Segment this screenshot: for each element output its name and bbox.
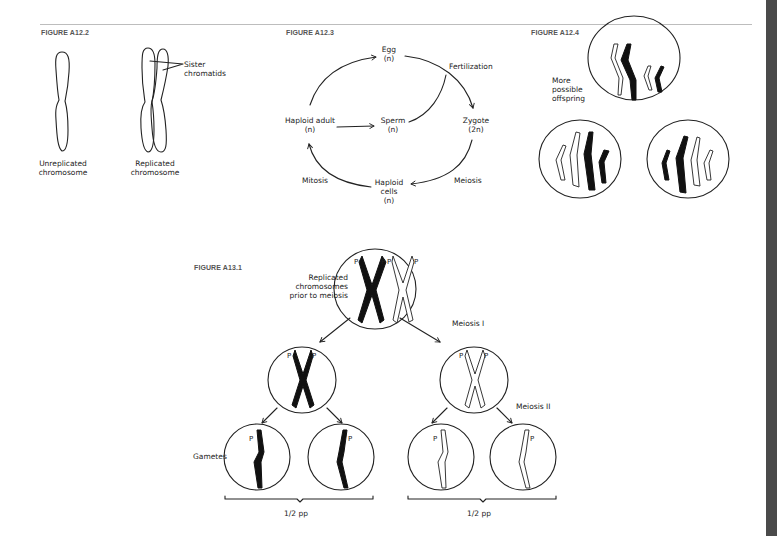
allele-marker: P	[459, 352, 463, 360]
allele-marker: P	[414, 258, 418, 266]
sperm-node: Sperm (n)	[376, 116, 410, 134]
haploid-adult-node: Haploid adult (n)	[280, 116, 340, 134]
fertilization-label: Fertilization	[449, 62, 493, 71]
meiosis-two-label: Meiosis II	[516, 402, 550, 411]
sister-chromatids-label: Sister chromatids	[184, 60, 226, 78]
recessive-cell	[440, 347, 508, 413]
bracket-right	[408, 496, 556, 502]
textbook-page: FIGURE A12.2 FIGURE A12.3 FIGURE A12.4 F…	[0, 0, 777, 536]
meiosis-two-arrow-1	[262, 408, 277, 423]
unreplicated-chromosome-label: Unreplicated chromosome	[36, 159, 90, 177]
allele-marker: P	[530, 435, 534, 443]
allele-marker: P	[287, 352, 291, 360]
allele-marker: P	[387, 258, 391, 266]
allele-marker: P	[348, 435, 352, 443]
dominant-cell	[268, 347, 336, 413]
allele-marker: P	[354, 258, 358, 266]
meiosis-one-label: Meiosis I	[452, 319, 484, 328]
offspring-cell-bottom-right	[647, 120, 729, 198]
zygote-node: Zygote (2n)	[459, 116, 493, 134]
gamete-2	[308, 424, 374, 490]
figure-a12-2-title: FIGURE A12.2	[41, 29, 89, 36]
figure-artwork	[0, 0, 777, 536]
gamete-3	[408, 424, 474, 490]
meiosis-two-arrow-4	[497, 408, 512, 423]
gamete-1	[224, 424, 290, 490]
allele-marker: P	[381, 258, 385, 266]
replicated-chromosomes-label: Replicated chromosomes prior to meiosis	[278, 273, 348, 300]
offspring-cell-bottom-left	[539, 120, 621, 198]
unreplicated-chromosome	[56, 52, 70, 151]
egg-node: Egg (n)	[374, 45, 404, 63]
left-fraction-label: 1/2 pp	[284, 509, 308, 518]
allele-marker: P	[433, 435, 437, 443]
allele-marker: P	[484, 352, 488, 360]
allele-marker: P	[312, 352, 316, 360]
more-possible-offspring-label: More possible offspring	[552, 76, 585, 103]
gamete-4	[490, 424, 556, 490]
gametes-label: Gametes	[193, 452, 227, 461]
figure-a12-4-title: FIGURE A12.4	[531, 29, 579, 36]
bracket-left	[225, 496, 373, 502]
mitosis-label: Mitosis	[302, 176, 328, 185]
haploid-cells-node: Haploid cells (n)	[372, 178, 406, 205]
figure-a13-1-title: FIGURE A13.1	[194, 264, 242, 271]
meiosis-one-arrow-right	[400, 318, 440, 342]
replicated-chromosome	[141, 48, 183, 152]
right-fraction-label: 1/2 pp	[467, 509, 491, 518]
meiosis-two-arrow-3	[432, 408, 447, 423]
replicated-chromosome-label: Replicated chromosome	[128, 159, 182, 177]
meiosis-one-arrow-left	[320, 318, 350, 342]
meiosis-label: Meiosis	[454, 176, 482, 185]
offspring-cell-top	[588, 16, 680, 100]
figure-a12-3-title: FIGURE A12.3	[286, 29, 334, 36]
meiosis-two-arrow-2	[327, 408, 342, 423]
allele-marker: P	[249, 435, 253, 443]
